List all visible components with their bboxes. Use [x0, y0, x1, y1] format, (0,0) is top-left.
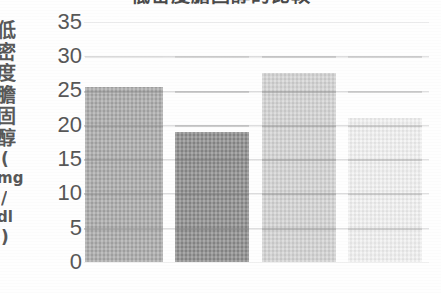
- y-tick-label: 0: [36, 251, 82, 273]
- y-axis-ticks: 35 30 25 20 15 10 5 0: [28, 22, 82, 262]
- y-axis-label-char: 醇: [0, 128, 16, 150]
- y-tick-label: 25: [36, 79, 82, 101]
- y-tick-label: 20: [36, 114, 82, 136]
- chart-title-clipped: 低密度膽固醇的比較: [0, 0, 441, 5]
- bar-texture: [262, 73, 336, 262]
- bar-texture: [85, 87, 163, 262]
- y-tick-label: 5: [36, 217, 82, 239]
- y-axis-label-char: 度: [0, 63, 16, 85]
- gridline: [84, 56, 429, 57]
- y-axis-label-char: ): [1, 227, 9, 247]
- axis-baseline: [84, 262, 429, 263]
- bar-series-2[interactable]: [175, 132, 249, 262]
- bar-series-3[interactable]: [262, 73, 336, 262]
- bar-texture: [175, 132, 249, 262]
- y-tick-label: 15: [36, 148, 82, 170]
- y-tick-label: 10: [36, 182, 82, 204]
- y-axis-label: 低 密 度 膽 固 醇 ( mg / dl ): [0, 20, 29, 272]
- y-tick-label: 35: [36, 11, 82, 33]
- chart-screenshot: 低密度膽固醇的比較 低 密 度 膽 固 醇 ( mg / dl ) 35 30 …: [0, 0, 441, 293]
- y-axis-label-char: 密: [0, 42, 16, 64]
- y-axis-label-char: dl: [0, 208, 13, 227]
- gridline: [84, 22, 429, 23]
- bar-texture: [348, 118, 422, 262]
- page-title: 低密度膽固醇的比較: [0, 0, 441, 5]
- y-tick-label: 30: [36, 45, 82, 67]
- bar-series-4[interactable]: [348, 118, 422, 262]
- y-axis-label-char: 低: [0, 20, 16, 42]
- y-axis-label-char: /: [1, 188, 7, 208]
- bar-series-1[interactable]: [85, 87, 163, 262]
- y-axis-label-char: mg: [0, 169, 23, 188]
- y-axis-label-char: 膽: [0, 85, 16, 107]
- y-axis-label-char: 固: [0, 106, 16, 128]
- plot-area: [84, 22, 429, 262]
- y-axis-label-char: (: [1, 149, 9, 169]
